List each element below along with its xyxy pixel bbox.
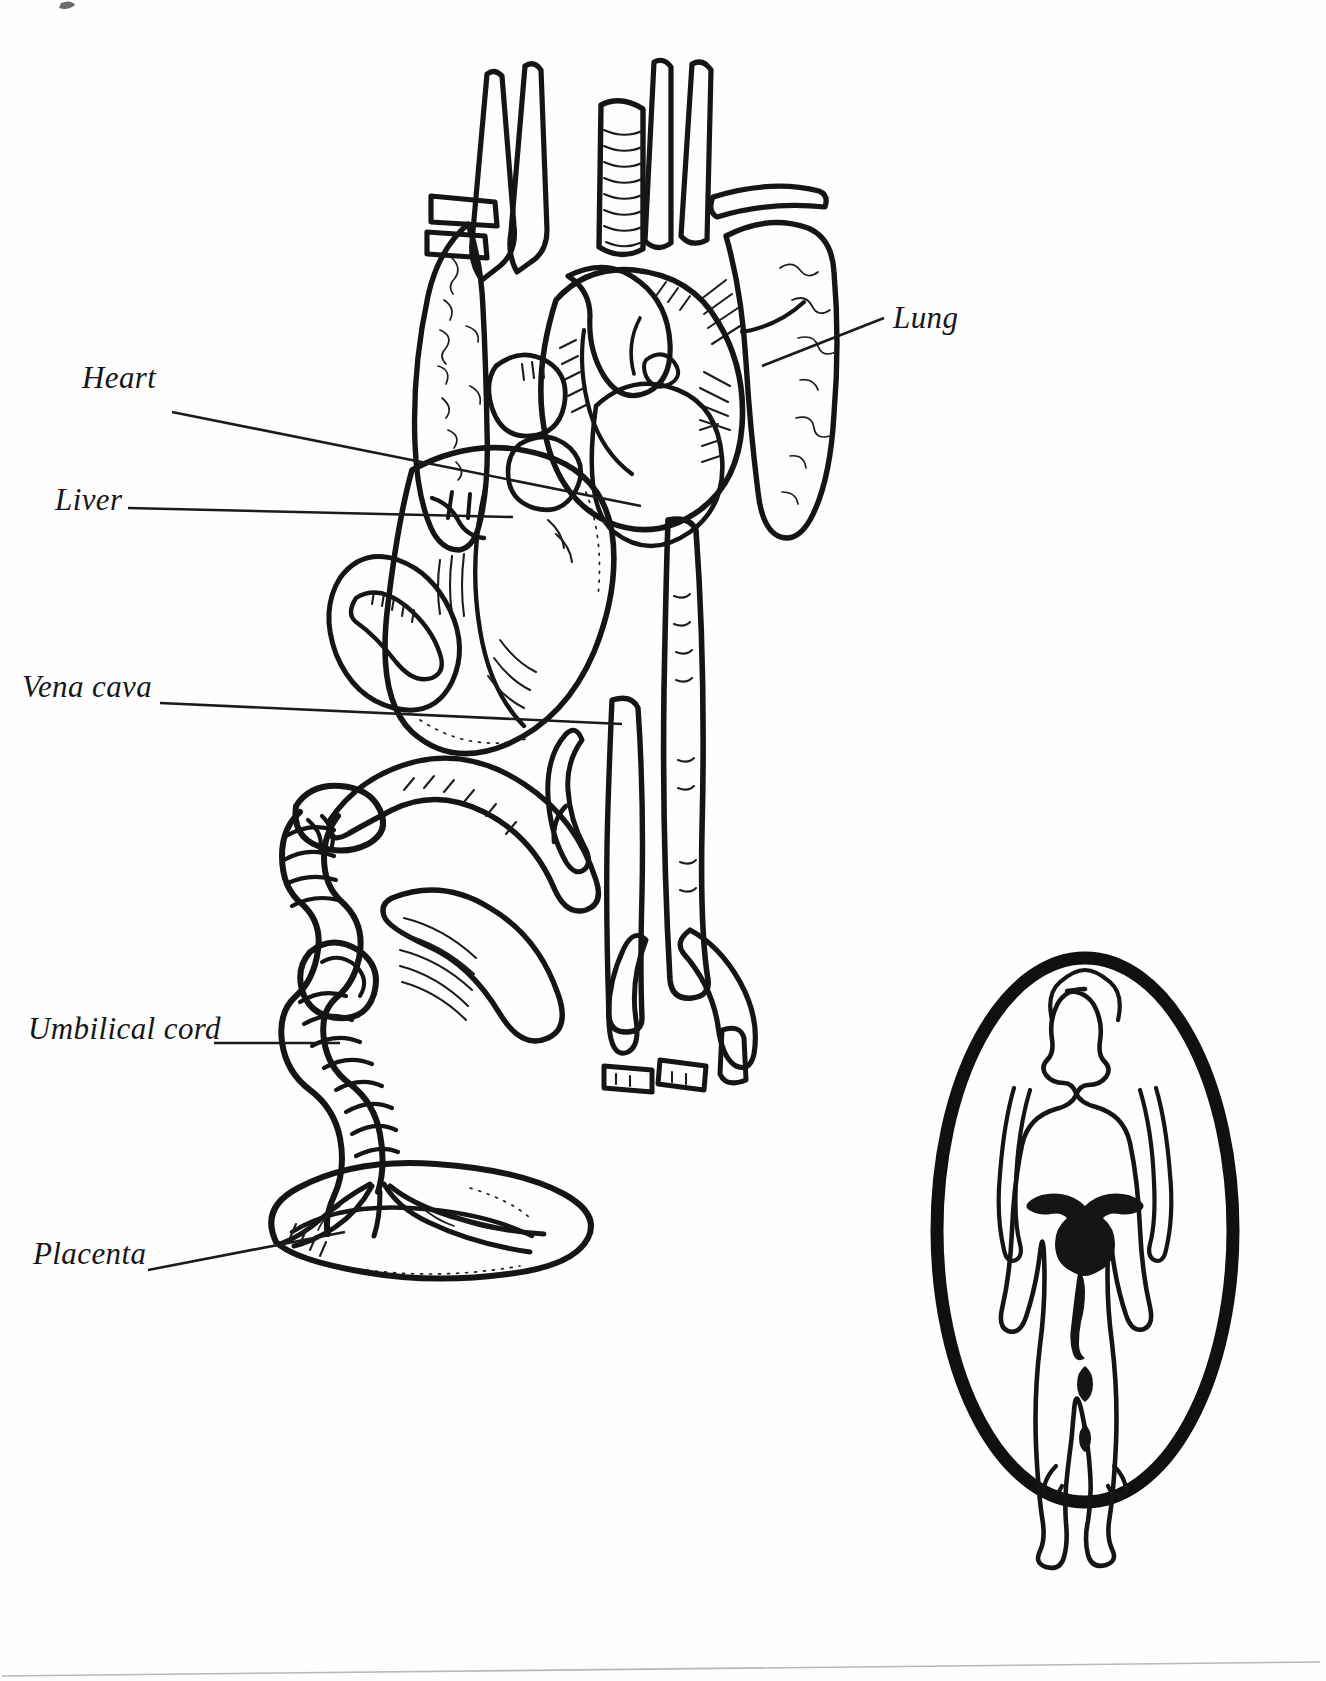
placental-vessels (280, 1184, 544, 1252)
leader-lines (128, 318, 884, 1270)
vessel-stub-upper (431, 196, 497, 226)
lower-canal-marker-1 (1077, 1366, 1093, 1402)
label-placenta: Placenta (33, 1238, 146, 1269)
vaginal-canal (1070, 1268, 1085, 1360)
label-liver: Liver (55, 484, 122, 515)
label-heart: Heart (82, 362, 156, 393)
anatomical-illustration (0, 0, 1326, 1681)
female-figure-inset (937, 958, 1233, 1568)
left-arm (999, 1088, 1030, 1261)
aortic-arch-band (711, 186, 826, 217)
right-carotid-vessel (645, 60, 671, 247)
label-umbilical-cord: Umbilical cord (28, 1013, 221, 1044)
trachea-rings (604, 130, 642, 246)
gallbladder (329, 557, 460, 711)
page-canvas: LungHeartLiverVena cavaUmbilical cordPla… (0, 0, 1326, 1681)
great-vessels-group (427, 60, 826, 280)
leader-line-placenta (148, 1232, 345, 1270)
label-lung: Lung (893, 302, 958, 333)
page-bottom-rule (2, 1662, 1320, 1676)
leader-line-lung (762, 318, 884, 366)
heart (489, 267, 743, 546)
descending-vessels (548, 519, 756, 1092)
top-edge-smudge (59, 1, 75, 9)
right-arm (1140, 1088, 1171, 1261)
placenta (271, 1163, 591, 1279)
right-subclavian-vessel (681, 62, 711, 243)
label-vena-cava: Vena cava (22, 671, 152, 702)
aorta-hatching (674, 594, 696, 892)
